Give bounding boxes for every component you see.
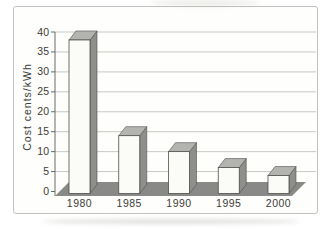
bar-side-1985: [140, 127, 147, 194]
bar-1980: [69, 40, 90, 194]
bar-side-1980: [90, 31, 97, 194]
x-category-label-1995: 1995: [216, 197, 241, 209]
y-tick-label-40: 40: [37, 26, 49, 38]
bar-2000: [268, 176, 289, 194]
bar-1990: [169, 152, 190, 194]
bar-1995: [218, 168, 239, 194]
x-category-label-1990: 1990: [166, 197, 191, 209]
y-tick-label-5: 5: [43, 165, 49, 177]
chart-figure: Cost cents/kWh 0510152025303540198019851…: [0, 0, 331, 229]
x-category-label-1980: 1980: [67, 197, 92, 209]
y-tick-label-25: 25: [37, 85, 49, 97]
y-tick-label-35: 35: [37, 45, 49, 57]
y-tick-label-0: 0: [43, 185, 49, 197]
y-tick-label-15: 15: [37, 125, 49, 137]
y-tick-label-10: 10: [37, 145, 49, 157]
x-category-label-1985: 1985: [117, 197, 142, 209]
y-tick-label-30: 30: [37, 65, 49, 77]
y-tick-label-20: 20: [37, 105, 49, 117]
bar-chart-canvas: 051015202530354019801985199019952000: [0, 0, 331, 229]
bar-1985: [119, 136, 140, 194]
x-category-label-2000: 2000: [266, 197, 291, 209]
